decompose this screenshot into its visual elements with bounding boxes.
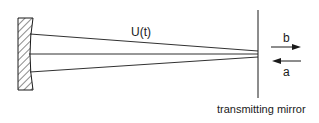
mirror-label: transmitting mirror <box>217 104 306 115</box>
output-label-b: b <box>283 32 290 44</box>
input-label-a: a <box>283 66 290 78</box>
beam-label: U(t) <box>131 26 151 38</box>
beam-lines <box>29 34 258 72</box>
input-arrow-a <box>272 58 301 64</box>
